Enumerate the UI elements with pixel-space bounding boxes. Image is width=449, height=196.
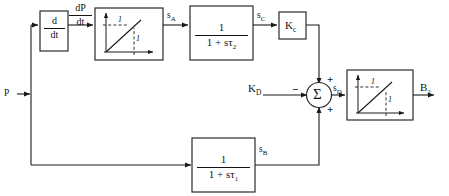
input-label-kd: KD (248, 82, 261, 97)
input-kd-base: K (248, 82, 256, 94)
signal-dp-dt: dP dt (69, 3, 92, 27)
signal-s-b: sB (259, 145, 267, 157)
wire-gain-kc-to-summer (306, 25, 319, 84)
signal-dp-dt-numerator: dP (69, 3, 92, 15)
gain-kc-base: K (285, 19, 293, 31)
summer-sign-bottom-plus: + (327, 104, 333, 115)
derivative-denominator: dt (44, 28, 65, 41)
input-label-p: P (4, 89, 9, 99)
signal-s-b-sub: B (263, 149, 268, 157)
summing-junction-symbol: Σ (313, 87, 322, 102)
gain-kc-sub: c (293, 25, 296, 34)
limiter-b-y-mark: 1 (371, 78, 375, 86)
lag2-denominator: 1 + sτ2 (195, 35, 248, 52)
block-diagram-canvas: P d dt dP dt 1 1 sA 1 1 + sτ2 sC Kc KD Σ… (0, 0, 449, 196)
output-label-b2: B2 (420, 82, 431, 96)
signal-s-a: sA (167, 11, 176, 23)
output-b2-sub: 2 (427, 88, 431, 96)
lag1-denominator: 1 + sτ1 (197, 167, 250, 184)
signal-dp-dt-denominator: dt (69, 15, 92, 28)
signal-s-d: sD (333, 84, 342, 96)
signal-s-c: sC (257, 11, 265, 23)
lag1-numerator: 1 (197, 154, 250, 167)
limiter-a-x-mark: 1 (136, 35, 140, 43)
lag-block-tau2-label: 1 1 + sτ2 (195, 22, 248, 51)
derivative-block-label: d dt (44, 16, 65, 40)
signal-s-c-sub: C (261, 15, 266, 23)
input-kd-sub: D (256, 88, 261, 97)
derivative-numerator: d (44, 16, 65, 28)
signal-s-d-sub: D (337, 88, 342, 96)
lag2-numerator: 1 (195, 22, 248, 35)
gain-block-kc-label: Kc (285, 19, 296, 34)
limiter-b-x-mark: 1 (388, 96, 392, 104)
summer-sign-left-minus: − (292, 84, 298, 95)
lag-block-tau1-label: 1 1 + sτ1 (197, 154, 250, 183)
limiter-a-y-mark: 1 (118, 16, 122, 24)
signal-s-a-sub: A (171, 15, 176, 23)
